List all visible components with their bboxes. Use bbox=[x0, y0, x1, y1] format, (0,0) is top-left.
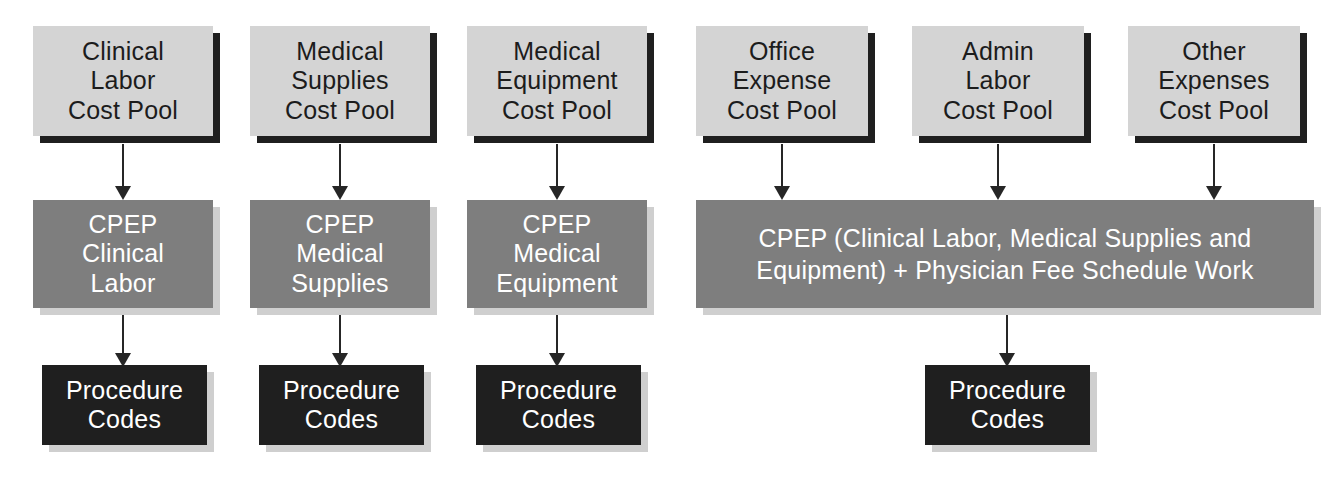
flowchart-diagram: Clinical Labor Cost Pool Medical Supplie… bbox=[0, 0, 1343, 484]
cost-pool-box-office-expense[interactable]: Office Expense Cost Pool bbox=[696, 26, 868, 136]
cpep-box-medical-equipment[interactable]: CPEP Medical Equipment bbox=[467, 200, 647, 308]
procedure-codes-box-2[interactable]: Procedure Codes bbox=[259, 365, 424, 445]
cpep-box-medical-supplies[interactable]: CPEP Medical Supplies bbox=[250, 200, 430, 308]
procedure-codes-box-3[interactable]: Procedure Codes bbox=[476, 365, 641, 445]
cost-pool-box-medical-equipment[interactable]: Medical Equipment Cost Pool bbox=[467, 26, 647, 136]
cost-pool-box-other-expenses[interactable]: Other Expenses Cost Pool bbox=[1128, 26, 1300, 136]
cpep-box-combined[interactable]: CPEP (Clinical Labor, Medical Supplies a… bbox=[696, 200, 1314, 308]
cpep-box-clinical-labor[interactable]: CPEP Clinical Labor bbox=[33, 200, 213, 308]
cost-pool-box-admin-labor[interactable]: Admin Labor Cost Pool bbox=[912, 26, 1084, 136]
procedure-codes-box-4[interactable]: Procedure Codes bbox=[925, 365, 1090, 445]
procedure-codes-box-1[interactable]: Procedure Codes bbox=[42, 365, 207, 445]
cost-pool-box-medical-supplies[interactable]: Medical Supplies Cost Pool bbox=[250, 26, 430, 136]
cost-pool-box-clinical-labor[interactable]: Clinical Labor Cost Pool bbox=[33, 26, 213, 136]
